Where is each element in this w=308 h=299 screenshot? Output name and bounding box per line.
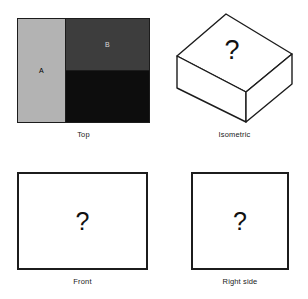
right-side-view-question-mark: ? [233, 209, 247, 234]
isometric-question-mark: ? [224, 35, 239, 65]
front-view-question-mark: ? [76, 209, 90, 234]
top-view-region-a: A [18, 19, 66, 122]
orthographic-projection-worksheet: { "figure": { "kind": "orthographic-proj… [0, 0, 308, 299]
front-view-figure: ? [17, 172, 148, 270]
region-a-label: A [39, 67, 44, 74]
isometric-view-caption: Isometric [172, 131, 297, 139]
top-view-caption: Top [17, 131, 150, 139]
isometric-view-figure: ? [172, 12, 297, 124]
region-b-label: B [105, 41, 110, 48]
right-side-view-caption: Right side [191, 278, 289, 286]
top-view-figure: A B [17, 18, 150, 123]
front-view-caption: Front [17, 278, 148, 286]
right-side-view-figure: ? [191, 172, 289, 270]
top-view-region-c [66, 71, 149, 122]
isometric-box-drawing: ? [172, 12, 297, 124]
top-view-region-b: B [66, 19, 149, 71]
